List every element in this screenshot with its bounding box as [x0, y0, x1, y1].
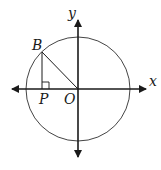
diagram-canvas: y x B P O: [0, 0, 161, 170]
segment-OB: [42, 52, 78, 89]
y-axis-label: y: [67, 5, 77, 21]
point-P-label: P: [38, 91, 49, 107]
right-angle-mark: [42, 82, 49, 89]
point-O-label: O: [64, 91, 76, 107]
x-axis-label: x: [149, 73, 157, 89]
point-B-label: B: [31, 37, 42, 53]
